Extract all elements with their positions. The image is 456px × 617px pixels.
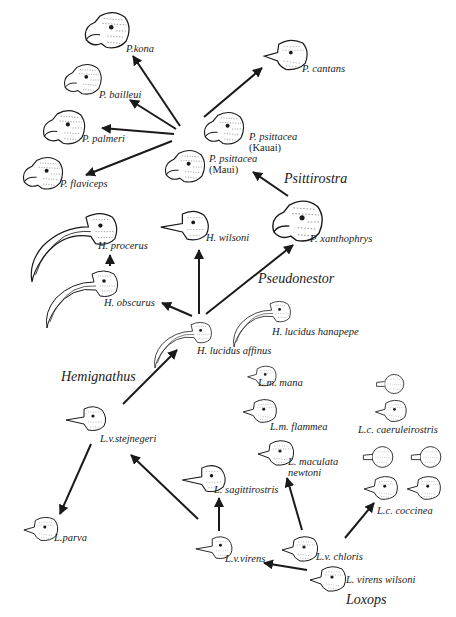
label-p-xanthophrys: P. xanthophrys bbox=[310, 233, 372, 244]
bird-head-icon-h-lucidus-affinus bbox=[148, 320, 218, 368]
bird-head-icon-p-flaviceps bbox=[18, 155, 64, 193]
label-l-m-flammea: L.m. flammea bbox=[270, 421, 327, 432]
genus-label-psittirostra: Psittirostra bbox=[284, 171, 347, 187]
label-h-obscurus: H. obscurus bbox=[104, 297, 155, 308]
bird-head-icon-l-c-caeruleirostris-2 bbox=[372, 398, 410, 424]
label-l-v-stejnegeri: L.v.stejnegeri bbox=[100, 433, 156, 444]
bird-head-icon-p-psittacea-maui bbox=[160, 148, 206, 186]
radiation-diagram: P.kona P. bailleui P. palmeri P. flavice… bbox=[0, 0, 456, 617]
bird-head-icon-p-psittacea-kauai bbox=[198, 110, 246, 148]
bird-head-icon-l-c-coccinea-2 bbox=[408, 444, 446, 470]
arrow-to-l-maculata-newtoni bbox=[287, 478, 302, 530]
label-p-flaviceps: P. flaviceps bbox=[60, 178, 108, 189]
arrow-to-p-bailleui bbox=[130, 100, 176, 129]
genus-label-loxops: Loxops bbox=[346, 592, 386, 608]
label-p-palmeri: P. palmeri bbox=[82, 133, 125, 144]
arrow-to-h-obscurus bbox=[162, 303, 192, 316]
arrow-to-l-parva bbox=[60, 444, 91, 514]
label-l-c-coccinea: L.c. coccinea bbox=[377, 505, 433, 516]
bird-head-icon-l-c-caeruleirostris-1 bbox=[374, 372, 408, 396]
label-p-psittacea-maui: P. psittacea (Maui) bbox=[209, 153, 257, 175]
bird-head-icon-l-c-coccinea-3 bbox=[362, 474, 400, 502]
label-p-kona: P.kona bbox=[126, 43, 154, 54]
label-h-lucidus-hanapepe: H. lucidus hanapepe bbox=[272, 326, 359, 337]
label-h-wilsoni: H. wilsoni bbox=[206, 232, 249, 243]
bird-head-icon-l-v-stejnegeri bbox=[64, 404, 110, 434]
label-p-bailleui: P. bailleui bbox=[99, 89, 141, 100]
label-h-procerus: H. procerus bbox=[98, 240, 148, 251]
bird-head-icon-l-virens-wilsoni bbox=[306, 564, 350, 594]
arrow-to-p-psittacea-maui bbox=[253, 172, 288, 196]
label-l-v-chloris: L.v. chloris bbox=[316, 551, 363, 562]
label-l-maculata-newtoni: L. maculata newtoni bbox=[288, 456, 338, 478]
bird-head-icon-h-lucidus-hanapepe bbox=[230, 298, 294, 348]
arrow-to-l-c-coccinea bbox=[345, 503, 374, 538]
label-p-cantans: P. cantans bbox=[302, 63, 345, 74]
label-h-lucidus-affinus: H. lucidus affinus bbox=[197, 345, 271, 356]
arrow-to-l-v-virens bbox=[264, 563, 307, 570]
label-l-c-caeruleirostris: L.c. caeruleirostris bbox=[358, 424, 438, 435]
bird-head-icon-p-palmeri bbox=[38, 108, 86, 148]
bird-head-icon-l-c-coccinea-4 bbox=[404, 474, 444, 502]
genus-label-pseudonestor: Pseudonestor bbox=[258, 271, 334, 287]
label-l-virens-wilsoni: L. virens wilsoni bbox=[346, 574, 415, 585]
bird-head-icon-l-v-chloris bbox=[280, 534, 320, 564]
bird-head-icon-p-bailleui bbox=[60, 62, 102, 98]
bird-head-icon-p-kona bbox=[80, 8, 130, 54]
bird-head-icon-l-c-coccinea-1 bbox=[360, 444, 398, 470]
label-l-v-virens: L.v.virens bbox=[225, 553, 265, 564]
label-l-parva: L.parva bbox=[54, 532, 87, 543]
label-l-sagittirostris: L. sagittirostris bbox=[214, 484, 278, 495]
label-l-m-mana: L.m. mana bbox=[258, 377, 303, 388]
label-p-psittacea-kauai: P. psittacea (Kauai) bbox=[249, 131, 297, 153]
genus-label-hemignathus: Hemignathus bbox=[61, 369, 136, 385]
